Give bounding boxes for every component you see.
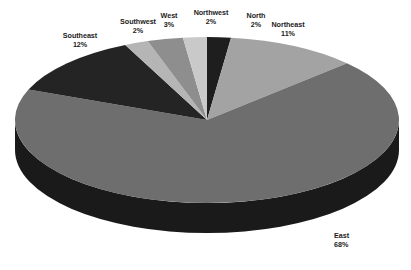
slice-label-east-name: East [334,231,374,240]
slice-label-west-name: West [152,11,186,20]
slice-label-east: East 68% [334,231,374,249]
slice-label-northwest: Northwest 2% [182,8,240,26]
slice-label-north-name: North [237,11,275,20]
slice-label-west: West 3% [152,11,186,29]
pie-chart-figure: Southeast 12% Southwest 2% West 3% North… [0,0,411,270]
slice-label-northwest-name: Northwest [182,8,240,17]
pie-top-faces [15,37,399,203]
slice-label-northeast-percent: 11% [257,29,319,38]
slice-label-northwest-percent: 2% [182,17,240,26]
slice-label-west-percent: 3% [152,20,186,29]
slice-label-northeast: Northeast 11% [257,20,319,38]
slice-label-southeast-percent: 12% [47,40,113,49]
slice-label-southeast: Southeast 12% [47,31,113,49]
slice-label-east-percent: 68% [334,240,374,249]
slice-label-northeast-name: Northeast [257,20,319,29]
slice-label-southeast-name: Southeast [47,31,113,40]
